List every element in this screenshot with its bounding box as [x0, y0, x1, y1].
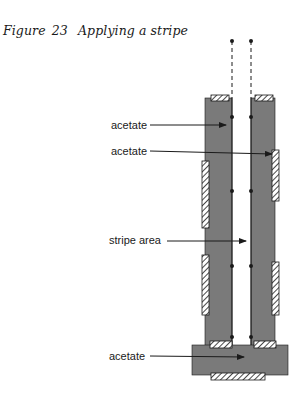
- svg-text:acetate: acetate: [111, 145, 147, 157]
- pull-lines: [230, 39, 253, 98]
- label-acetate-upper-right: acetate: [111, 145, 272, 157]
- stripe-diagram: acetate acetate stripe area acetate: [0, 0, 303, 398]
- svg-text:acetate: acetate: [109, 350, 145, 362]
- bottom-block: [192, 345, 288, 375]
- pivot-dots: [230, 115, 253, 339]
- right-strip: [251, 98, 275, 346]
- svg-text:acetate: acetate: [111, 119, 147, 131]
- svg-text:stripe area: stripe area: [109, 234, 162, 246]
